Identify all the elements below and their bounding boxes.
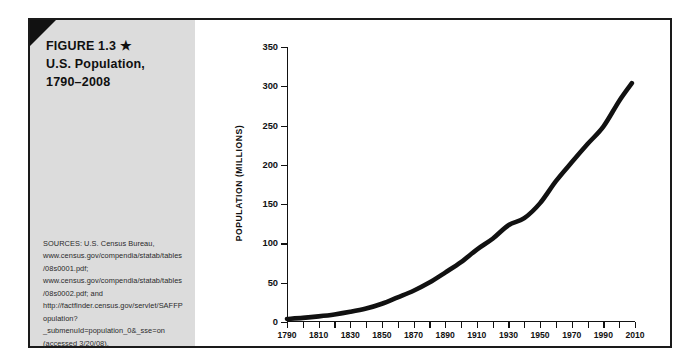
figure-title-line-2: U.S. Population,: [46, 56, 187, 74]
x-axis-tick: [366, 322, 367, 328]
figure-title-line-3: 1790–2008: [46, 74, 187, 92]
y-axis-tick-label: 200: [262, 160, 278, 170]
x-axis-tick: [493, 322, 494, 328]
x-axis-tick: [588, 322, 589, 328]
x-axis-tick: [319, 322, 320, 328]
y-axis-tick-label: 50: [268, 278, 278, 288]
x-axis-tick-label: 1910: [467, 330, 486, 340]
sources-note: SOURCES: U.S. Census Bureau, www.census.…: [43, 238, 183, 350]
caption-panel: FIGURE 1.3 ★ U.S. Population, 1790–2008 …: [30, 20, 195, 346]
x-axis-tick: [287, 322, 288, 328]
x-axis-tick-label: 1830: [341, 330, 360, 340]
x-axis-tick-label: 1790: [277, 330, 296, 340]
x-axis-tick: [445, 322, 446, 328]
x-axis-tick-label: 1890: [436, 330, 455, 340]
x-axis-tick-label: 1850: [372, 330, 391, 340]
y-axis-title-text: POPULATION (MILLIONS): [234, 125, 244, 241]
x-axis-tick: [303, 322, 304, 328]
y-axis-tick-label: 300: [262, 81, 278, 91]
x-axis-tick: [619, 322, 620, 328]
y-axis-tick-label: 250: [262, 121, 278, 131]
y-axis-tick-label: 100: [262, 238, 278, 248]
x-axis-tick-label: 1810: [309, 330, 328, 340]
population-line-path: [287, 83, 632, 319]
population-line-series: [287, 47, 635, 322]
x-axis-tick: [508, 322, 509, 328]
x-axis-tick: [398, 322, 399, 328]
x-axis-tick: [429, 322, 430, 328]
x-axis-tick-label: 2010: [625, 330, 644, 340]
x-axis-tick: [572, 322, 573, 328]
x-axis-tick: [350, 322, 351, 328]
x-axis-tick-label: 1950: [531, 330, 550, 340]
plot-area: 050100150200250300350 179018101830185018…: [287, 47, 635, 322]
y-axis-tick-label: 150: [262, 199, 278, 209]
x-axis-tick: [414, 322, 415, 328]
x-axis-tick: [382, 322, 383, 328]
x-axis-tick: [524, 322, 525, 328]
plot-panel: POPULATION (MILLIONS) 050100150200250300…: [195, 20, 670, 346]
y-axis-title: POPULATION (MILLIONS): [232, 20, 246, 346]
y-axis-tick-label: 350: [262, 42, 278, 52]
x-axis-tick: [603, 322, 604, 328]
x-axis-tick: [540, 322, 541, 328]
x-axis-tick-label: 1970: [562, 330, 581, 340]
x-axis-tick: [477, 322, 478, 328]
y-axis-tick-label: 0: [273, 317, 278, 327]
x-axis-tick-label: 1870: [404, 330, 423, 340]
x-axis-tick-label: 1930: [499, 330, 518, 340]
x-axis-tick: [334, 322, 335, 328]
x-axis-tick: [556, 322, 557, 328]
figure-frame: FIGURE 1.3 ★ U.S. Population, 1790–2008 …: [28, 18, 672, 348]
figure-title: FIGURE 1.3 ★ U.S. Population, 1790–2008: [46, 38, 187, 91]
x-axis-tick: [461, 322, 462, 328]
x-axis-tick-label: 1990: [594, 330, 613, 340]
figure-title-line-1: FIGURE 1.3 ★: [46, 38, 187, 56]
x-axis-tick: [635, 322, 636, 328]
